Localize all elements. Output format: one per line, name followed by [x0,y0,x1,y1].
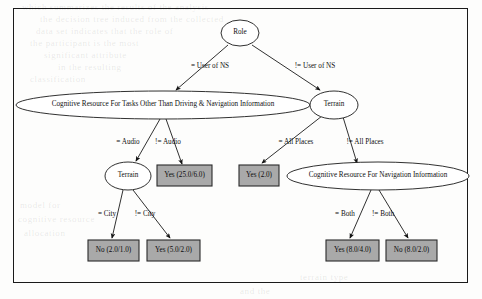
edge-label: = City [98,211,116,218]
edge-label: != Both [372,211,394,218]
edge-label: = Audio [116,139,139,146]
leaf-node [326,240,379,261]
decision-node-terrain_left [105,162,151,190]
leaf-node [88,240,139,261]
decision-node-root [221,20,259,46]
edge-label: != All Places [346,139,383,146]
edge-label: != Audio [155,139,181,146]
decision-node-terrain_right [310,91,358,119]
edge-label: = User of NS [191,63,229,70]
decision-node-cog_nav [287,162,469,190]
leaf-node [386,240,437,261]
edge-label: = Both [335,211,355,218]
edge-label: != City [135,211,156,218]
leaf-node [239,165,279,186]
tree-graphics [0,0,482,299]
leaf-node [157,165,212,186]
figure-canvas: which summarizes the results of the anal… [0,0,482,299]
edge-label: = All Places [279,139,314,146]
decision-node-cog_other [16,91,310,119]
edge-label: != User of NS [295,63,336,70]
leaf-node [147,240,200,261]
